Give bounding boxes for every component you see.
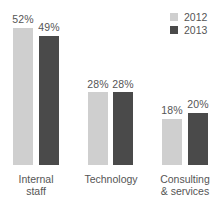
bar-technology-2013	[113, 92, 133, 165]
category-label-internal-staff: Internal staff	[1, 173, 71, 197]
bar-technology-2012	[88, 92, 108, 165]
category-line-2: & services	[150, 185, 218, 197]
category-label-technology: Technology	[76, 173, 146, 185]
legend: 2012 2013	[170, 10, 207, 36]
bar-consulting-2012	[162, 119, 182, 165]
category-line-1: Internal	[1, 173, 71, 185]
bar-internal-staff-2012	[13, 28, 33, 165]
legend-label-2013: 2013	[184, 24, 207, 36]
legend-item-2013: 2013	[170, 23, 207, 36]
bar-internal-staff-2013	[39, 36, 59, 165]
category-line-1: Technology	[76, 173, 146, 185]
grouped-bar-chart: 2012 2013 52% 49% 28% 28% 18% 20% Intern…	[0, 0, 218, 198]
legend-swatch-2012	[170, 13, 178, 21]
value-label-consulting-2013: 20%	[183, 98, 213, 110]
value-label-internal-staff-2013: 49%	[34, 21, 64, 33]
category-line-1: Consulting	[150, 173, 218, 185]
bar-consulting-2013	[188, 113, 208, 165]
category-label-consulting: Consulting & services	[150, 173, 218, 197]
legend-swatch-2013	[170, 26, 178, 34]
value-label-technology-2013: 28%	[108, 78, 138, 90]
legend-label-2012: 2012	[184, 11, 207, 23]
legend-item-2012: 2012	[170, 10, 207, 23]
category-line-2: staff	[1, 185, 71, 197]
